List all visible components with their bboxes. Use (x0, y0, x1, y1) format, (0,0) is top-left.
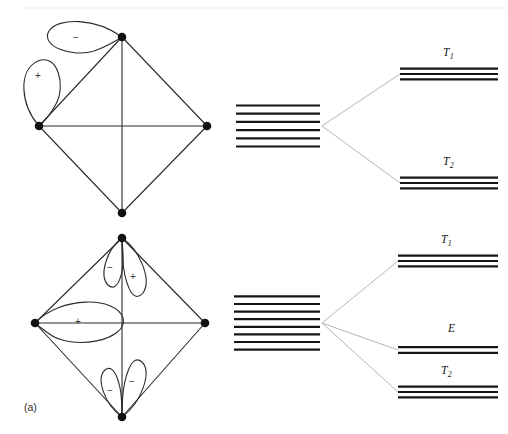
term-letter: T (441, 364, 447, 376)
upper-splitting-diagram (236, 69, 498, 189)
lobe-sign-minus-lower-bottom-left: − (107, 386, 113, 396)
term-letter: T (443, 46, 449, 58)
lower-t1-level-group (398, 256, 498, 267)
panel-label: (a) (24, 401, 37, 413)
lobe-sign-plus-lower-left: + (75, 317, 81, 327)
orbital-lobe-plus-left (24, 60, 60, 126)
lower-correlation-lines (322, 261, 398, 392)
term-letter: T (443, 155, 449, 167)
upper-t1-level-group (400, 69, 498, 80)
term-label-t1-lower: T1 (441, 233, 451, 245)
edge-right-bottom (122, 323, 205, 417)
correlation-line-to-t1 (322, 74, 400, 126)
lobe-sign-plus-lower-top-right: + (130, 272, 136, 282)
term-label-t2-lower: T2 (441, 364, 451, 376)
figure-vector-layer (0, 0, 508, 434)
correlation-line-to-t1 (322, 261, 398, 323)
edge-top-left (35, 238, 122, 323)
term-label-t2-upper: T2 (443, 155, 453, 167)
lower-tetrahedron-diagram (31, 234, 210, 422)
lobe-sign-minus-lower-bottom-right: − (129, 377, 135, 387)
lower-degenerate-manifold (234, 296, 320, 349)
vertex-right (203, 122, 212, 131)
lower-tetrahedron-vertices (31, 234, 210, 422)
edge-right-bottom (122, 126, 207, 213)
lobe-sign-plus-upper-left: + (35, 71, 41, 81)
upper-tetrahedron-edges (39, 37, 207, 213)
term-subscript: 1 (448, 239, 452, 248)
correlation-line-to-e (322, 323, 398, 350)
vertex-bottom (118, 413, 127, 422)
figure-canvas: + − + − + − − T1 T2 T1 E T2 (a) (0, 0, 508, 434)
orbital-lobe-plus-top (122, 238, 146, 296)
lower-e-level-group (398, 347, 498, 353)
edge-top-right (122, 37, 207, 126)
vertex-top (118, 234, 127, 243)
term-letter: E (448, 322, 455, 334)
lower-splitting-diagram (234, 256, 498, 398)
upper-tetrahedron-diagram (24, 21, 211, 217)
vertex-left (31, 319, 40, 328)
correlation-line-to-t2 (322, 126, 400, 183)
term-subscript: 1 (450, 52, 454, 61)
correlation-line-to-t2 (322, 323, 398, 392)
upper-t2-level-group (400, 178, 498, 189)
vertex-left (35, 122, 44, 131)
term-label-e-lower: E (448, 322, 455, 334)
vertex-right (201, 319, 210, 328)
vertex-top (118, 33, 127, 42)
lower-t2-level-group (398, 387, 498, 398)
edge-left-bottom (39, 126, 122, 213)
term-subscript: 2 (450, 161, 454, 170)
term-letter: T (441, 233, 447, 245)
edge-top-left (39, 37, 122, 126)
lobe-sign-minus-upper-top: − (73, 33, 79, 43)
upper-correlation-lines (322, 74, 400, 183)
orbital-lobe-minus-bottom-right (122, 360, 146, 417)
lobe-sign-minus-lower-top-left: − (107, 263, 113, 273)
term-label-t1-upper: T1 (443, 46, 453, 58)
vertex-bottom (118, 209, 127, 218)
upper-tetrahedron-vertices (35, 33, 212, 218)
upper-degenerate-manifold (236, 106, 320, 147)
term-subscript: 2 (448, 370, 452, 379)
